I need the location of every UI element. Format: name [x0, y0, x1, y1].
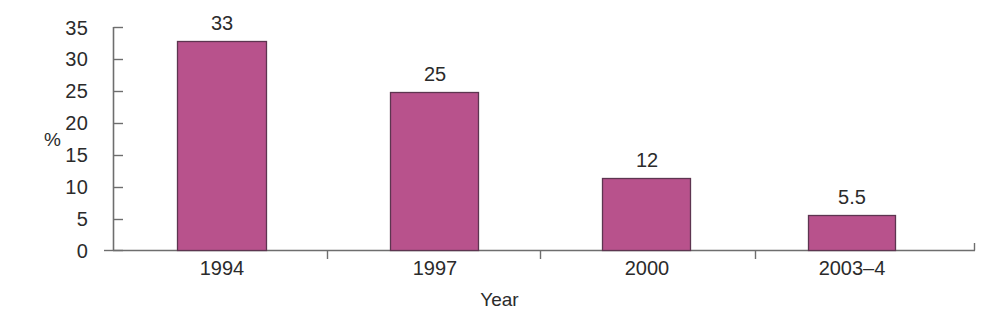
- bar-2003-4: [809, 216, 896, 251]
- bar-1997: [391, 93, 479, 251]
- value-label-2003-4: 5.5: [792, 186, 912, 208]
- bar-2000: [603, 179, 691, 251]
- value-label-2000: 12: [587, 149, 707, 171]
- value-label-1997: 25: [375, 63, 495, 85]
- x-category-label-2003-4: 2003–4: [792, 257, 912, 279]
- bar-1994: [178, 42, 267, 251]
- bar-chart: 35 30 25 20 15 10 5 0 % 33 25 12 5.5: [0, 0, 999, 327]
- x-category-label-1997: 1997: [375, 257, 495, 279]
- x-axis-title: Year: [0, 290, 999, 310]
- value-label-1994: 33: [162, 12, 282, 34]
- x-category-label-2000: 2000: [587, 257, 707, 279]
- x-category-label-1994: 1994: [162, 257, 282, 279]
